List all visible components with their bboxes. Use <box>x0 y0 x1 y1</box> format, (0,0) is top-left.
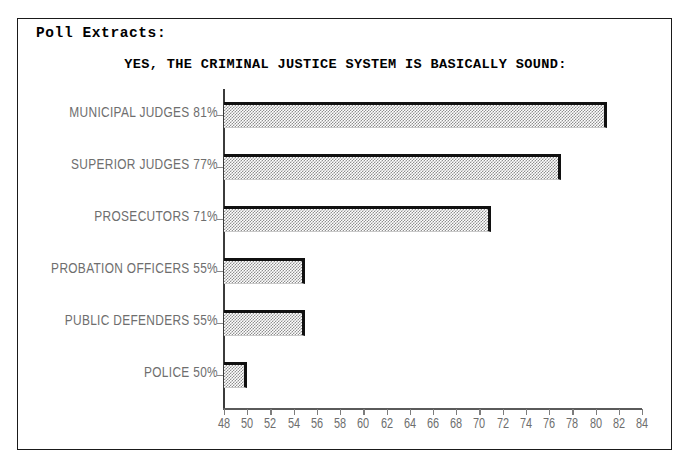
bar-label: MUNICIPAL JUDGES 81% <box>21 104 218 120</box>
chart-plot-area: MUNICIPAL JUDGES 81%SUPERIOR JUDGES 77%P… <box>18 19 673 451</box>
x-axis-tick-label: 72 <box>491 415 514 431</box>
bar <box>224 206 491 232</box>
x-axis-tick-label: 74 <box>514 415 537 431</box>
bar-label: PUBLIC DEFENDERS 55% <box>21 312 218 328</box>
category-tick <box>217 167 223 168</box>
category-tick <box>217 375 223 376</box>
bar-label: POLICE 50% <box>21 364 218 380</box>
x-axis-tick-label: 64 <box>398 415 421 431</box>
x-axis-tick-label: 50 <box>236 415 259 431</box>
x-axis-tick-label: 78 <box>561 415 584 431</box>
x-axis-tick-label: 82 <box>607 415 630 431</box>
category-tick <box>217 219 223 220</box>
document-frame: Poll Extracts: YES, THE CRIMINAL JUSTICE… <box>17 18 672 450</box>
x-axis-tick-label: 66 <box>421 415 444 431</box>
bar-label: PROSECUTORS 71% <box>21 208 218 224</box>
bar <box>224 258 305 284</box>
x-axis-tick-label: 84 <box>630 415 653 431</box>
bar-row: MUNICIPAL JUDGES 81% <box>18 102 673 128</box>
bar-row: PUBLIC DEFENDERS 55% <box>18 310 673 336</box>
x-axis-tick-label: 62 <box>375 415 398 431</box>
category-tick <box>217 323 223 324</box>
x-axis-tick-label: 58 <box>328 415 351 431</box>
x-axis-tick-label: 80 <box>584 415 607 431</box>
bar <box>224 102 607 128</box>
x-axis-tick-label: 76 <box>537 415 560 431</box>
bar <box>224 362 247 388</box>
bar-label: SUPERIOR JUDGES 77% <box>21 156 218 172</box>
bar-row: PROBATION OFFICERS 55% <box>18 258 673 284</box>
x-axis-tick-label: 60 <box>352 415 375 431</box>
x-axis-tick-label: 52 <box>259 415 282 431</box>
x-axis-tick-label: 70 <box>468 415 491 431</box>
x-axis-tick-label: 54 <box>282 415 305 431</box>
bar-label: PROBATION OFFICERS 55% <box>21 260 218 276</box>
category-tick <box>217 115 223 116</box>
value-axis-line <box>223 89 225 409</box>
page-root: Poll Extracts: YES, THE CRIMINAL JUSTICE… <box>0 0 687 468</box>
bar-row: PROSECUTORS 71% <box>18 206 673 232</box>
category-tick <box>217 271 223 272</box>
bar-row: SUPERIOR JUDGES 77% <box>18 154 673 180</box>
bar <box>224 154 561 180</box>
x-axis-tick-label: 56 <box>305 415 328 431</box>
x-axis-tick-label: 68 <box>445 415 468 431</box>
bar-row: POLICE 50% <box>18 362 673 388</box>
bar <box>224 310 305 336</box>
x-axis-tick-label: 48 <box>212 415 235 431</box>
